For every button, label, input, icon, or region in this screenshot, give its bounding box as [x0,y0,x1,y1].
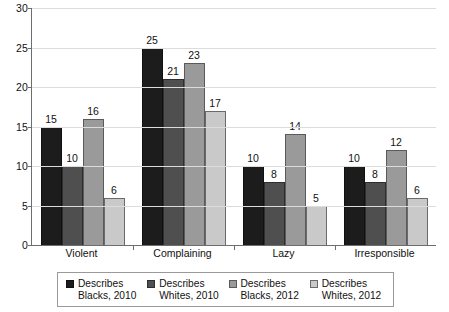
bar-value-label: 10 [348,153,360,164]
legend-label: Describes Whites, 2012 [322,278,381,302]
y-tick-label: 25 [16,42,28,53]
legend-item[interactable]: Describes Blacks, 2012 [226,278,307,302]
bar: 14 [285,134,306,245]
y-tickmark [28,245,32,246]
bar-value-label: 17 [209,98,221,109]
y-tick-label: 30 [16,3,28,14]
y-tickmark [28,206,32,207]
y-tickmark [28,166,32,167]
x-tick-label: Violent [66,248,98,259]
gridline [32,8,436,9]
x-axis-labels: ViolentComplainingLazyIrresponsible [31,248,435,264]
bar: 8 [264,182,285,245]
bar-chart: 051015202530 151016625212317108145108126… [0,0,449,312]
legend-item[interactable]: Describes Whites, 2010 [144,278,225,302]
gridline [32,206,436,207]
bar: 8 [365,182,386,245]
gridline [32,48,436,49]
x-tick-label: Lazy [272,248,294,259]
y-tickmark [28,87,32,88]
y-tick-label: 15 [16,121,28,132]
bar: 15 [41,127,62,246]
bar: 21 [163,79,184,245]
legend-swatch-icon [66,280,74,288]
gridline [32,166,436,167]
x-tick-label: Irresponsible [354,248,414,259]
chart-legend: Describes Blacks, 2010Describes Whites, … [57,272,394,307]
bar-value-label: 6 [414,185,420,196]
legend-item[interactable]: Describes Whites, 2012 [307,278,388,302]
y-axis-labels: 051015202530 [0,0,28,262]
bar-value-label: 16 [87,106,99,117]
bar: 25 [142,48,163,246]
gridline [32,87,436,88]
bar-value-label: 10 [247,153,259,164]
bar-value-label: 21 [167,66,179,77]
legend-label: Describes Blacks, 2010 [78,278,136,302]
bar-value-label: 25 [146,35,158,46]
legend-swatch-icon [310,280,318,288]
x-tick-label: Complaining [153,248,211,259]
legend-item[interactable]: Describes Blacks, 2010 [63,278,144,302]
legend-label: Describes Blacks, 2012 [241,278,299,302]
bar: 16 [83,119,104,245]
y-tick-label: 20 [16,82,28,93]
legend-swatch-icon [229,280,237,288]
y-tickmark [28,8,32,9]
bar-value-label: 10 [66,153,78,164]
bar-value-label: 15 [45,114,57,125]
bar-value-label: 12 [390,137,402,148]
legend-label: Describes Whites, 2010 [159,278,218,302]
bar-value-label: 23 [188,50,200,61]
bar-value-label: 6 [111,185,117,196]
y-tickmark [28,127,32,128]
y-tick-label: 10 [16,161,28,172]
bar-value-label: 8 [271,169,277,180]
bar: 23 [184,63,205,245]
y-tickmark [28,48,32,49]
gridline [32,127,436,128]
plot-wrapper: 051015202530 151016625212317108145108126… [0,0,449,262]
bar: 12 [386,150,407,245]
bar: 5 [306,206,327,246]
legend-swatch-icon [147,280,155,288]
bar: 17 [205,111,226,245]
bar-value-label: 5 [313,193,319,204]
bar-value-label: 8 [372,169,378,180]
plot-area: 151016625212317108145108126 [31,8,436,246]
